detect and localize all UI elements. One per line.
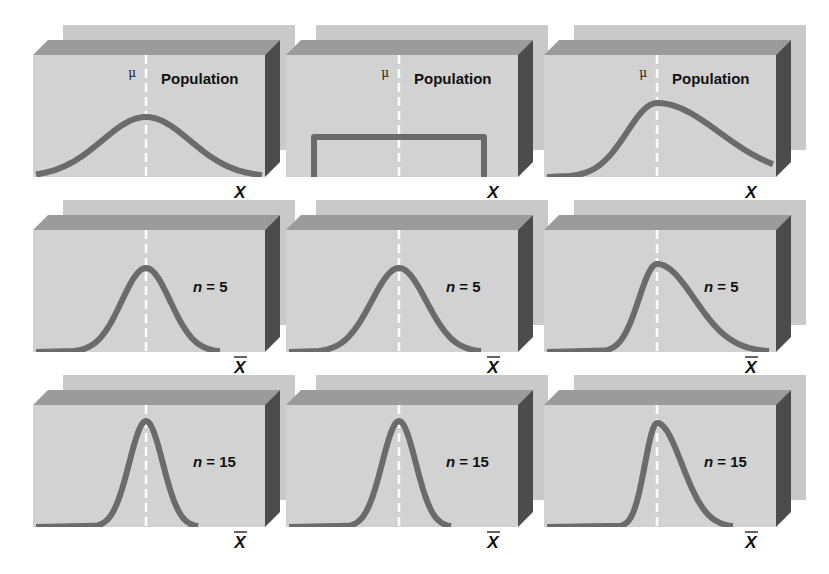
- x-bar-axis-label: X: [744, 533, 758, 552]
- x-axis-label: X: [486, 183, 500, 202]
- box-side-face: [518, 390, 533, 527]
- x-bar-axis-label: X: [233, 533, 247, 552]
- population-label: Population: [672, 70, 750, 87]
- panel-row1-col2: n = 5X: [544, 200, 806, 377]
- x-axis-label: X: [744, 183, 758, 202]
- panel-row0-col2: μPopulationX: [544, 25, 806, 202]
- panel-row1-col1: n = 5X: [286, 200, 548, 377]
- box-side-face: [265, 390, 280, 527]
- box-side-face: [265, 215, 280, 352]
- box-side-face: [518, 40, 533, 177]
- sample-size-label: n = 5: [193, 278, 228, 295]
- x-bar-axis-label: X: [744, 358, 758, 377]
- box-side-face: [518, 215, 533, 352]
- mu-label: μ: [639, 66, 647, 80]
- sample-size-label: n = 15: [193, 453, 236, 470]
- panel-row2-col1: n = 15X: [286, 375, 548, 552]
- box-top-face: [286, 40, 533, 55]
- box-front-face: [33, 230, 265, 352]
- sample-size-label: n = 15: [446, 453, 489, 470]
- panel-row1-col0: n = 5X: [33, 200, 295, 377]
- panel-row0-col1: μPopulationX: [286, 25, 548, 202]
- x-bar-axis-label: X: [486, 533, 500, 552]
- box-top-face: [286, 390, 533, 405]
- sampling-distribution-diagram: μPopulationXμPopulationXμPopulationXn = …: [0, 0, 829, 574]
- box-side-face: [776, 215, 791, 352]
- x-axis-label: X: [233, 183, 247, 202]
- panel-row2-col2: n = 15X: [544, 375, 806, 552]
- box-front-face: [286, 230, 518, 352]
- box-top-face: [544, 215, 791, 230]
- mu-label: μ: [381, 66, 389, 80]
- population-label: Population: [414, 70, 492, 87]
- sample-size-label: n = 15: [704, 453, 747, 470]
- mu-label: μ: [128, 66, 136, 80]
- diagram-canvas: μPopulationXμPopulationXμPopulationXn = …: [0, 0, 829, 574]
- box-top-face: [544, 390, 791, 405]
- box-side-face: [265, 40, 280, 177]
- box-front-face: [544, 230, 776, 352]
- box-top-face: [33, 40, 280, 55]
- box-side-face: [776, 390, 791, 527]
- panel-row2-col0: n = 15X: [33, 375, 295, 552]
- sample-size-label: n = 5: [446, 278, 481, 295]
- box-top-face: [286, 215, 533, 230]
- box-top-face: [544, 40, 791, 55]
- box-top-face: [33, 390, 280, 405]
- box-side-face: [776, 40, 791, 177]
- panel-row0-col0: μPopulationX: [33, 25, 295, 202]
- box-top-face: [33, 215, 280, 230]
- sample-size-label: n = 5: [704, 278, 739, 295]
- x-bar-axis-label: X: [486, 358, 500, 377]
- population-label: Population: [161, 70, 239, 87]
- x-bar-axis-label: X: [233, 358, 247, 377]
